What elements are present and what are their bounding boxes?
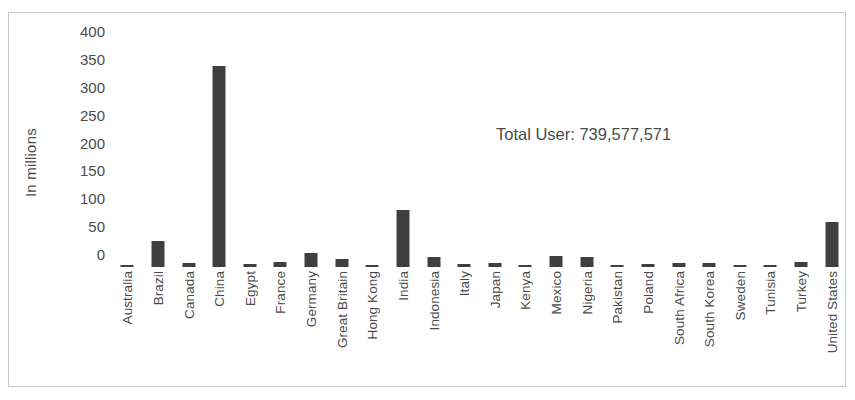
- bar-slot: [173, 43, 204, 267]
- x-axis-label-japan: Japan: [488, 271, 503, 308]
- bar: [396, 210, 409, 267]
- bar: [488, 263, 501, 267]
- bar-slot: [755, 43, 786, 267]
- bar-slot: [265, 43, 296, 267]
- bar-slot: [112, 43, 143, 267]
- chart-frame: In millions 400350300250200150100500 Aus…: [8, 12, 846, 387]
- bar: [213, 66, 226, 267]
- y-axis-tick-150: 150: [49, 162, 105, 179]
- y-axis-tick-200: 200: [49, 134, 105, 151]
- x-axis-label-poland: Poland: [641, 271, 656, 314]
- bar-slot: [235, 43, 266, 267]
- bar-slot: [510, 43, 541, 267]
- x-axis-label-sweden: Sweden: [733, 271, 748, 320]
- y-axis-title: In millions: [22, 103, 44, 223]
- x-axis-label-australia: Australia: [120, 271, 135, 324]
- plot-area: [112, 43, 847, 267]
- x-axis-label-indonesia: Indonesia: [427, 271, 442, 330]
- x-axis-label-egypt: Egypt: [243, 271, 258, 306]
- bar-slot: [204, 43, 235, 267]
- bar: [121, 265, 134, 267]
- x-axis-label-tunisia: Tunisia: [763, 271, 778, 315]
- y-axis-tick-250: 250: [49, 106, 105, 123]
- bar: [672, 263, 685, 267]
- bar-slot: [694, 43, 725, 267]
- x-axis-label-pakistan: Pakistan: [610, 271, 625, 324]
- x-axis-label-south-korea: South Korea: [702, 271, 717, 347]
- bar: [580, 257, 593, 267]
- bar-slot: [143, 43, 174, 267]
- x-axis-label-kenya: Kenya: [518, 271, 533, 310]
- bar-slot: [633, 43, 664, 267]
- x-axis-label-hong-kong: Hong Kong: [365, 271, 380, 339]
- bar-slot: [296, 43, 327, 267]
- bar-slot: [388, 43, 419, 267]
- x-axis-label-italy: Italy: [457, 271, 472, 296]
- bar-slot: [786, 43, 817, 267]
- bar: [519, 265, 532, 267]
- bar: [458, 264, 471, 267]
- y-axis-tick-100: 100: [49, 190, 105, 207]
- bar: [305, 253, 318, 267]
- x-axis-label-nigeria: Nigeria: [580, 271, 595, 314]
- bar: [825, 222, 838, 267]
- x-axis-label-china: China: [212, 271, 227, 307]
- x-axis-label-united-states: United States: [825, 271, 840, 353]
- bar: [182, 263, 195, 267]
- x-axis-label-turkey: Turkey: [794, 271, 809, 312]
- bar: [151, 241, 164, 267]
- bar: [764, 265, 777, 267]
- x-axis-label-france: France: [273, 271, 288, 314]
- x-axis-label-south-africa: South Africa: [672, 271, 687, 345]
- x-axis-label-canada: Canada: [182, 271, 197, 319]
- bar-slot: [571, 43, 602, 267]
- bar-slot: [449, 43, 480, 267]
- bar-slot: [663, 43, 694, 267]
- bar-slot: [816, 43, 847, 267]
- total-user-annotation: Total User: 739,577,571: [496, 125, 671, 144]
- x-axis-label-india: India: [396, 271, 411, 301]
- y-axis-tick-400: 400: [49, 23, 105, 40]
- y-axis-tick-0: 0: [49, 246, 105, 263]
- bar-slot: [541, 43, 572, 267]
- bar: [703, 263, 716, 267]
- y-axis-tick-300: 300: [49, 78, 105, 95]
- bar: [366, 265, 379, 267]
- chart-title-clipped: [0, 0, 855, 11]
- bar: [550, 256, 563, 267]
- bar: [641, 264, 654, 267]
- bar: [733, 265, 746, 267]
- bar: [795, 262, 808, 267]
- bar-slot: [480, 43, 511, 267]
- bar: [274, 262, 287, 267]
- bar: [335, 259, 348, 267]
- y-axis-tick-50: 50: [49, 218, 105, 235]
- bar-slot: [602, 43, 633, 267]
- bar: [611, 265, 624, 267]
- x-axis-label-mexico: Mexico: [549, 271, 564, 314]
- bar-slot: [725, 43, 756, 267]
- x-axis-label-germany: Germany: [304, 271, 319, 327]
- x-axis-label-brazil: Brazil: [151, 271, 166, 305]
- bar-slot: [418, 43, 449, 267]
- bar: [243, 264, 256, 267]
- bar-slot: [326, 43, 357, 267]
- y-axis-tick-350: 350: [49, 50, 105, 67]
- bar-slot: [357, 43, 388, 267]
- bar: [427, 257, 440, 267]
- x-axis-label-great-britain: Great Britain: [335, 271, 350, 348]
